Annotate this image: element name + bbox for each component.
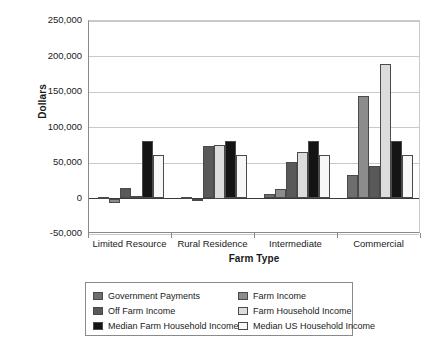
legend-swatch-icon bbox=[238, 322, 248, 330]
bar bbox=[358, 96, 369, 199]
bar bbox=[120, 188, 131, 199]
legend-item: Farm Income bbox=[238, 288, 375, 303]
y-axis-tick-label: 250,000 bbox=[20, 15, 82, 25]
bar bbox=[181, 197, 192, 199]
bar-group bbox=[89, 21, 172, 232]
legend-label: Median Farm Household Income bbox=[108, 321, 239, 331]
bar bbox=[214, 145, 225, 198]
bar bbox=[319, 155, 330, 198]
bar bbox=[402, 155, 413, 198]
bar bbox=[98, 197, 109, 199]
chart-legend: Government PaymentsOff Farm IncomeMedian… bbox=[85, 282, 353, 336]
bar bbox=[192, 199, 203, 201]
legend-item: Farm Household Income bbox=[238, 303, 375, 318]
x-axis-category-label: Limited Resource bbox=[88, 238, 171, 249]
bar-group bbox=[255, 21, 338, 232]
legend-item: Off Farm Income bbox=[93, 303, 239, 318]
y-axis-tick-label: 50,000 bbox=[20, 157, 82, 167]
bar bbox=[391, 141, 402, 199]
legend-swatch-icon bbox=[238, 292, 248, 300]
bar bbox=[131, 196, 142, 199]
y-axis-tick-label: 0 bbox=[20, 193, 82, 203]
x-axis-category-label: Rural Residence bbox=[171, 238, 254, 249]
bar bbox=[275, 189, 286, 198]
bar bbox=[203, 146, 214, 199]
x-axis-tick bbox=[420, 233, 421, 238]
legend-label: Government Payments bbox=[108, 291, 200, 301]
bar bbox=[109, 199, 120, 204]
legend-swatch-icon bbox=[238, 307, 248, 315]
bar-group bbox=[338, 21, 421, 232]
legend-swatch-icon bbox=[93, 322, 103, 330]
legend-item: Median Farm Household Income bbox=[93, 318, 239, 333]
y-axis-tick-label: -50,000 bbox=[20, 228, 82, 238]
x-axis-category-label: Commercial bbox=[337, 238, 420, 249]
y-axis-tick-label: 100,000 bbox=[20, 122, 82, 132]
legend-item: Government Payments bbox=[93, 288, 239, 303]
y-axis-tick-label: 200,000 bbox=[20, 51, 82, 61]
bar-series-container bbox=[89, 21, 419, 232]
legend-swatch-icon bbox=[93, 292, 103, 300]
legend-label: Farm Income bbox=[253, 291, 306, 301]
bar bbox=[286, 162, 297, 198]
bar bbox=[225, 141, 236, 199]
legend-column-left: Government PaymentsOff Farm IncomeMedian… bbox=[93, 288, 239, 333]
bar bbox=[380, 64, 391, 199]
bar bbox=[369, 166, 380, 199]
bar bbox=[308, 141, 319, 199]
bar bbox=[347, 175, 358, 198]
bar bbox=[236, 155, 247, 198]
x-axis-category-label: Intermediate bbox=[254, 238, 337, 249]
legend-item: Median US Household Income bbox=[238, 318, 375, 333]
y-axis-tick-label: 150,000 bbox=[20, 86, 82, 96]
legend-label: Farm Household Income bbox=[253, 306, 352, 316]
legend-column-right: Farm IncomeFarm Household IncomeMedian U… bbox=[238, 288, 375, 333]
bar-group bbox=[172, 21, 255, 232]
bar bbox=[142, 141, 153, 199]
bar bbox=[297, 152, 308, 198]
plot-area bbox=[88, 20, 420, 233]
legend-swatch-icon bbox=[93, 307, 103, 315]
bar bbox=[264, 194, 275, 198]
bar bbox=[153, 155, 164, 198]
legend-label: Median US Household Income bbox=[253, 321, 375, 331]
x-axis-title: Farm Type bbox=[88, 253, 420, 264]
legend-label: Off Farm Income bbox=[108, 306, 175, 316]
chart-figure: Dollars 250,000200,000150,000100,00050,0… bbox=[0, 0, 438, 354]
